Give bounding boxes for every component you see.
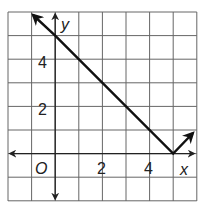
y-tick-label-2: 2 (38, 101, 47, 118)
y-axis-label: y (60, 16, 70, 33)
coordinate-graph: y x O 2 4 4 2 (0, 0, 202, 207)
x-tick-label-4: 4 (144, 160, 153, 177)
x-axis-label: x (179, 161, 189, 178)
x-tick-label-2: 2 (97, 160, 106, 177)
origin-label: O (35, 160, 47, 177)
y-tick-label-4: 4 (38, 54, 47, 71)
